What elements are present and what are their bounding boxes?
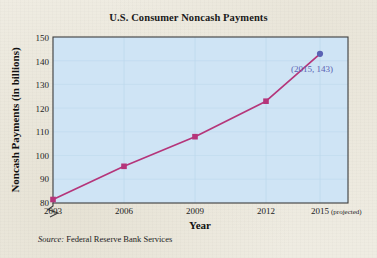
- data-point-2003: [50, 197, 56, 203]
- source-text: Federal Reserve Bank Services: [66, 234, 172, 244]
- y-tick-90: 90: [40, 174, 50, 184]
- x-tick-2012: 2012: [257, 206, 275, 216]
- y-tick-120: 120: [36, 104, 50, 114]
- data-point-2009: [192, 134, 198, 140]
- x-tick-2015: 2015: [311, 206, 330, 216]
- chart-plot-area: 150 140 130 120 110 100 90 80 Noncash Pa…: [0, 0, 377, 258]
- x-axis-title: Year: [189, 219, 211, 231]
- x-tick-2006: 2006: [115, 206, 134, 216]
- data-point-2012: [263, 98, 269, 104]
- y-axis-title: Noncash Payments (in billions): [9, 47, 22, 192]
- y-tick-130: 130: [36, 80, 50, 90]
- x-tick-2009: 2009: [186, 206, 205, 216]
- x-tick-2003: 2003: [44, 206, 63, 216]
- y-tick-100: 100: [36, 151, 50, 161]
- source-prefix: Source:: [38, 234, 64, 244]
- y-tick-140: 140: [36, 57, 50, 67]
- data-point-2015: [317, 51, 323, 57]
- source-note: Source: Federal Reserve Bank Services: [38, 234, 172, 244]
- chart-figure: U.S. Consumer Noncash Payments: [0, 0, 377, 258]
- x-tick-projected-note: (projected): [331, 208, 362, 216]
- y-axis-tick-labels: 150 140 130 120 110 100 90 80: [36, 33, 50, 208]
- x-axis-tick-labels: 2003 2006 2009 2012 2015 (projected): [44, 206, 362, 216]
- data-point-2006: [121, 164, 127, 170]
- data-point-annotation: (2015, 143): [291, 64, 333, 74]
- y-tick-110: 110: [36, 127, 50, 137]
- y-tick-150: 150: [36, 33, 50, 43]
